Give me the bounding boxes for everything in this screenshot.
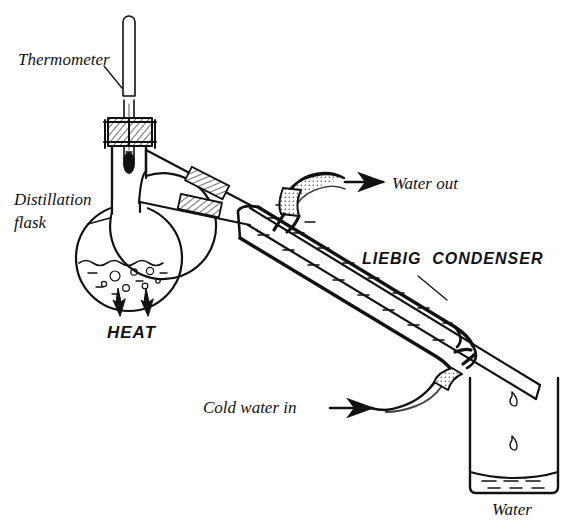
distillation-diagram: Thermometer Distillation flask HEAT Wate…	[0, 0, 579, 524]
label-cold-water-in: Cold water in	[203, 398, 297, 418]
label-distillation-flask-line2: flask	[14, 213, 46, 233]
label-water-out: Water out	[392, 174, 458, 194]
distillate-droplets	[510, 392, 517, 450]
thermometer-icon	[123, 16, 135, 174]
label-heat: HEAT	[107, 323, 156, 343]
label-liebig-condenser: LIEBIG CONDENSER	[362, 250, 543, 268]
side-arm-tube	[139, 150, 252, 225]
label-distillation-flask-line1: Distillation	[14, 190, 91, 210]
label-thermometer: Thermometer	[18, 50, 110, 70]
ground-glass-stopper	[104, 118, 156, 148]
label-water: Water	[492, 500, 532, 520]
water-inlet-hose	[370, 349, 475, 412]
condenser-inner-tube	[248, 208, 540, 399]
